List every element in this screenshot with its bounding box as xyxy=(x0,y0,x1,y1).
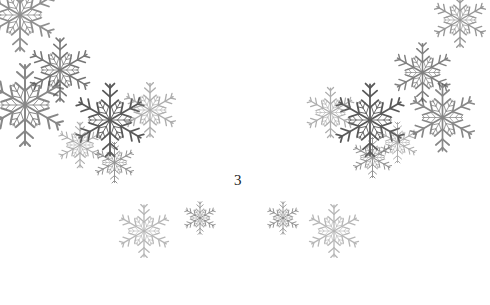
snowflake-icon xyxy=(92,140,137,185)
page-number: 3 xyxy=(234,172,242,189)
snowflake-icon xyxy=(182,200,218,236)
snowflake-icon xyxy=(375,120,420,165)
snowflake-icon xyxy=(120,80,180,140)
snowflake-icon xyxy=(305,202,363,260)
snowflake-icon xyxy=(303,85,358,140)
snowflake-icon xyxy=(115,202,173,260)
snowflake-icon xyxy=(265,200,301,236)
